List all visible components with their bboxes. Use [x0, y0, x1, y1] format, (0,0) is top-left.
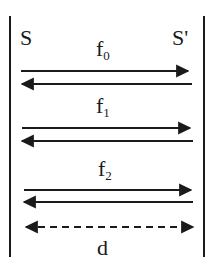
label-s: S	[20, 25, 32, 50]
label-f1: f1	[96, 93, 110, 120]
label-d: d	[97, 235, 108, 260]
frame-diagram: S S' f0 f1 f2 d	[0, 0, 214, 272]
label-f2: f2	[98, 156, 112, 183]
label-f0: f0	[96, 36, 110, 63]
label-s-prime: S'	[172, 25, 188, 50]
